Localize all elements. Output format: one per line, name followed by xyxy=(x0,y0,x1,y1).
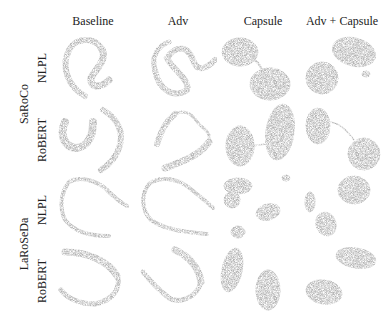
panel-saroco-robert-capsule xyxy=(218,102,300,174)
row-label-saroco-nlpl: NLPL xyxy=(35,28,49,108)
panel-laroseda-robert-adv xyxy=(135,246,217,318)
panel-saroco-nlpl-baseline xyxy=(55,30,137,102)
column-header-adv: Adv xyxy=(133,14,223,29)
panel-laroseda-robert-baseline xyxy=(55,246,137,318)
row-label-saroco-robert: RoBERT xyxy=(35,100,49,180)
panel-saroco-nlpl-adv xyxy=(135,30,217,102)
column-header-baseline: Baseline xyxy=(48,14,138,29)
column-header-capsule: Capsule xyxy=(218,14,308,29)
panel-laroseda-nlpl-adv-capsule xyxy=(300,174,382,246)
row-label-laroseda-nlpl: NLPL xyxy=(35,170,49,250)
column-header-adv-capsule: Adv + Capsule xyxy=(297,14,387,29)
panel-laroseda-nlpl-baseline xyxy=(55,174,137,246)
group-label-saroco: SaRoCo xyxy=(17,64,31,144)
panel-laroseda-nlpl-capsule xyxy=(218,174,300,246)
panel-laroseda-robert-adv-capsule xyxy=(300,246,382,318)
panel-saroco-nlpl-adv-capsule xyxy=(300,30,382,102)
row-label-laroseda-robert: RoBERT xyxy=(35,241,49,321)
group-label-laroseda: LaRoSeDa xyxy=(17,204,31,284)
panel-laroseda-nlpl-adv xyxy=(135,174,217,246)
panel-saroco-robert-adv-capsule xyxy=(300,102,382,174)
panel-laroseda-robert-capsule xyxy=(218,246,300,318)
panel-saroco-robert-baseline xyxy=(55,102,137,174)
panel-saroco-nlpl-capsule xyxy=(218,30,300,102)
panel-saroco-robert-adv xyxy=(135,102,217,174)
